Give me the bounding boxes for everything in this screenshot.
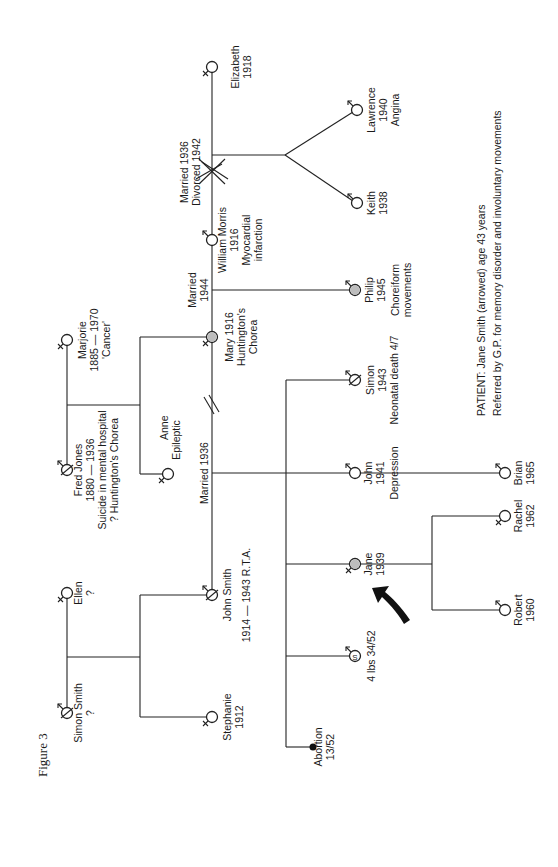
male-symbol-brian [496, 464, 511, 479]
proband-arrow-icon [372, 586, 410, 624]
female-symbol-jane-affected [346, 559, 361, 574]
label-simon-note: Neonatal death 4/7 [388, 335, 400, 424]
label-elizabeth-dates: 1918 [241, 55, 253, 79]
label-philip-dates: 1945 [375, 278, 387, 302]
label-william-morris-note2: infarction [252, 219, 264, 262]
patient-note-line2: Referred by G.P. for memory disorder and… [491, 110, 503, 416]
svg-text:S: S [352, 653, 357, 662]
label-fred-jones-note1: Suicide in mental hospital [96, 410, 108, 529]
female-symbol-mary-affected [203, 332, 218, 347]
label-john-note: Depression [388, 446, 400, 499]
label-simon-dates: 1943 [376, 368, 388, 392]
male-symbol-robert [496, 601, 511, 616]
label-robert: Robert [512, 594, 524, 626]
label-mary: Mary 1916 [223, 312, 235, 362]
label-fred-jones-dates: 1880 — 1936 [84, 438, 96, 501]
label-lawrence-dates: 1940 [377, 98, 389, 122]
label-lawrence-note: Angina [389, 93, 401, 126]
label-anne: Anne [158, 415, 170, 440]
label-fred-jones: Fred Jones [72, 444, 84, 497]
label-brian-dates: 1965 [524, 461, 536, 485]
male-symbol-john-smith [203, 586, 218, 601]
female-symbol-rachel [496, 511, 511, 526]
label-philip-note2: movements [401, 263, 413, 317]
male-symbol-fred-jones [58, 461, 73, 476]
label-william-morris-note1: Myocardial [240, 215, 252, 266]
label-married-smith-mary: Married 1936 [198, 442, 210, 504]
label-elizabeth: Elizabeth [229, 45, 241, 88]
female-symbol-stephanie [203, 712, 218, 727]
label-robert-dates: 1960 [524, 598, 536, 622]
label-keith: Keith [365, 191, 377, 215]
female-symbol-ellen [58, 588, 73, 603]
label-married-morris-elizabeth: Married 1936 [178, 141, 190, 203]
male-symbol-simon-smith [58, 704, 73, 719]
label-marjorie-dates: 1885 — 1970 [88, 308, 100, 371]
label-divorced-morris-elizabeth: Divorced 1942 [190, 138, 202, 206]
figure-caption: Figure 3 [35, 733, 50, 777]
male-symbol-keith [348, 194, 363, 209]
label-john-smith: John Smith [221, 569, 233, 622]
pedigree-lines [67, 67, 500, 747]
label-fred-jones-note2: ? Huntington's Chorea [108, 418, 120, 522]
label-marjorie-note: 'Cancer' [100, 321, 112, 359]
label-philip-note1: Choreiform [389, 264, 401, 316]
label-rachel-dates: 1962 [524, 504, 536, 528]
label-jane-dates: 1939 [374, 552, 386, 576]
label-mary-note1: Huntington's [235, 308, 247, 366]
male-symbol-stillbirth: S [346, 647, 361, 662]
label-simon: Simon [364, 365, 376, 395]
label-anne-note: Epileptic [170, 420, 182, 460]
label-stillbirth: 4 lbs 34/52 [365, 630, 377, 682]
female-symbol-marjorie [58, 335, 73, 350]
label-william-morris-dates: 1916 [228, 228, 240, 252]
label-john: John [362, 461, 374, 484]
label-rachel: Rachel [512, 500, 524, 533]
label-john-dates: 1941 [374, 461, 386, 485]
label-simon-smith: Simon Smith [72, 683, 84, 743]
label-lawrence: Lawrence [365, 87, 377, 133]
label-philip: Philip [363, 277, 375, 303]
label-stephanie-dates: 1912 [233, 705, 245, 729]
label-married-mary-morris-2: 1944 [198, 278, 210, 302]
label-married-mary-morris-1: Married [186, 272, 198, 308]
male-symbol-philip-affected [346, 281, 361, 296]
male-symbol-simon [346, 371, 361, 386]
label-simon-smith-dates: ? [84, 710, 96, 716]
female-symbol-anne [159, 469, 174, 484]
label-mary-note2: Chorea [247, 320, 259, 355]
label-abortion: Abortion [312, 727, 324, 766]
patient-note-line1: PATIENT: Jane Smith (arrowed) age 43 yea… [475, 205, 487, 416]
label-abortion-dates: 13/52 [324, 734, 336, 760]
pedigree-chart: Figure 3 [0, 0, 558, 867]
label-ellen: Ellen [72, 581, 84, 605]
label-stephanie: Stephanie [221, 693, 233, 740]
label-jane: Jane [362, 552, 374, 575]
label-marjorie: Marjorie [76, 321, 88, 359]
label-brian: Brian [512, 461, 524, 486]
label-william-morris: William Morris [216, 207, 228, 273]
male-symbol-john [346, 464, 361, 479]
label-keith-dates: 1938 [377, 191, 389, 215]
female-symbol-elizabeth [203, 62, 218, 77]
label-john-smith-dates: 1914 — 1943 R.T.A. [240, 548, 252, 643]
label-ellen-dates: ? [84, 590, 96, 596]
